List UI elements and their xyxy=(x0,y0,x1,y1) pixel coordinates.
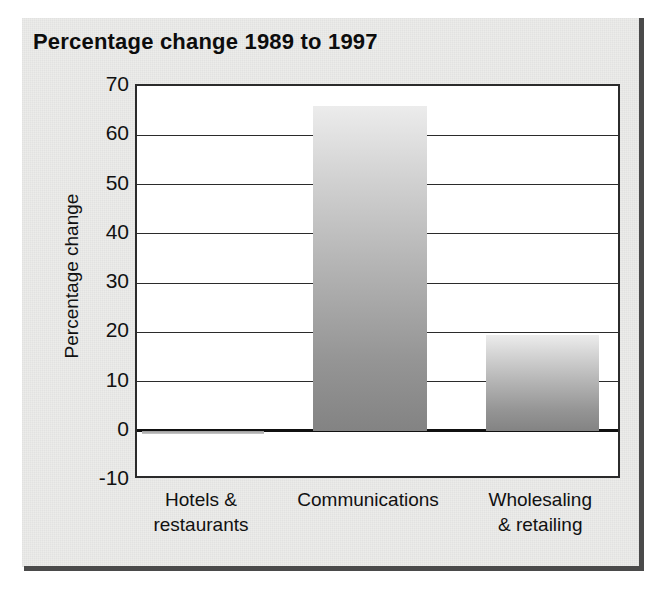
x-label-line2: & retailing xyxy=(445,512,635,537)
x-label-1: Communications xyxy=(273,487,463,512)
bar-2 xyxy=(486,335,599,431)
bar-1 xyxy=(313,106,427,431)
x-label-0: Hotels &restaurants xyxy=(106,487,296,537)
plot-area xyxy=(135,84,620,478)
y-tick-label-30: 30 xyxy=(59,269,129,293)
y-tick-label-0: 0 xyxy=(59,417,129,441)
y-tick-label-50: 50 xyxy=(59,171,129,195)
x-label-line2: restaurants xyxy=(106,512,296,537)
bar-0 xyxy=(142,431,264,434)
x-label-2: Wholesaling& retailing xyxy=(445,487,635,537)
panel-right-rule xyxy=(639,18,644,571)
y-tick-label-40: 40 xyxy=(59,220,129,244)
x-label-line1: Communications xyxy=(297,489,439,510)
x-label-line1: Hotels & xyxy=(165,489,237,510)
y-tick-label-60: 60 xyxy=(59,121,129,145)
y-tick-label-20: 20 xyxy=(59,318,129,342)
chart-title: Percentage change 1989 to 1997 xyxy=(33,29,378,55)
chart-figure: Percentage change 1989 to 1997 Percentag… xyxy=(0,0,661,592)
y-axis-tick-labels: 706050403020100-10 xyxy=(55,84,129,478)
x-label-line1: Wholesaling xyxy=(488,489,592,510)
x-axis-category-labels: Hotels &restaurantsCommunicationsWholesa… xyxy=(135,487,620,557)
y-tick-label-10: 10 xyxy=(59,368,129,392)
y-tick-label-70: 70 xyxy=(59,72,129,96)
panel-bottom-rule xyxy=(24,566,644,571)
